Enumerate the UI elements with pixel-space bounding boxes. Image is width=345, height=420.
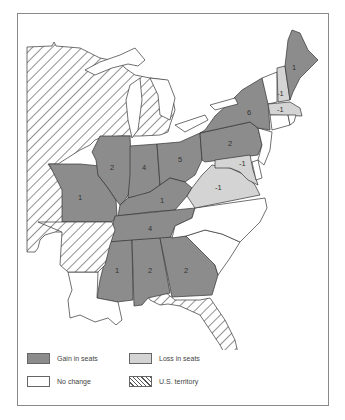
label-maryland: -1 xyxy=(239,159,246,168)
legend-gain-label: Gain in seats xyxy=(57,355,98,362)
lake-erie xyxy=(175,115,208,132)
label-maine: 1 xyxy=(292,63,296,72)
territory-florida xyxy=(145,292,240,350)
loss-swatch xyxy=(129,353,152,364)
legend-territory: U.S. territory xyxy=(129,376,198,387)
legend-gain: Gain in seats xyxy=(27,353,98,364)
label-indiana: 4 xyxy=(142,163,146,172)
legend-no-change-label: No change xyxy=(57,378,91,385)
label-pennsylvania: 2 xyxy=(228,139,232,148)
label-kentucky: 1 xyxy=(160,196,164,205)
state-massachusetts xyxy=(268,102,302,116)
state-maine xyxy=(285,30,318,100)
label-new-york: 6 xyxy=(247,108,251,117)
legend-loss: Loss in seats xyxy=(129,353,200,364)
label-alabama: 2 xyxy=(148,266,152,275)
gain-swatch xyxy=(27,353,50,364)
map-svg: 1 -1 -1 6 2 -1 -1 5 4 2 1 1 4 1 2 2 xyxy=(0,0,345,350)
label-new-hampshire: -1 xyxy=(277,89,284,98)
legend-territory-label: U.S. territory xyxy=(159,378,198,385)
territory-swatch xyxy=(129,376,152,387)
label-virginia: -1 xyxy=(215,183,222,192)
label-illinois: 2 xyxy=(110,163,114,172)
legend-no-change: No change xyxy=(27,376,91,387)
legend-loss-label: Loss in seats xyxy=(159,355,200,362)
label-georgia: 2 xyxy=(184,266,188,275)
label-missouri: 1 xyxy=(78,193,82,202)
label-mississippi: 1 xyxy=(115,266,119,275)
label-ohio: 5 xyxy=(178,155,182,164)
state-connecticut xyxy=(270,115,290,130)
legend: Gain in seats Loss in seats No change U.… xyxy=(27,353,287,398)
label-tennessee: 4 xyxy=(148,224,152,233)
label-massachusetts: -1 xyxy=(277,105,284,114)
no-change-swatch xyxy=(27,376,50,387)
